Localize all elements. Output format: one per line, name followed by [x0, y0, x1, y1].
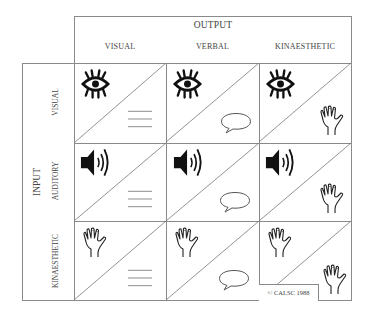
speech-bubble-icon	[220, 112, 252, 134]
cell-auditory-verbal	[166, 143, 259, 221]
copyright-label: © CALSC 1988	[259, 284, 319, 301]
row-header-visual: VISUAL	[51, 72, 61, 132]
hand-icon	[267, 227, 293, 259]
cell-visual-visual	[74, 63, 166, 143]
speech-bubble-icon	[218, 269, 250, 291]
output-title: OUTPUT	[74, 20, 352, 30]
speaker-icon	[265, 146, 295, 179]
cell-auditory-kinaesthetic	[259, 143, 351, 221]
speaker-icon	[173, 146, 203, 179]
cell-kinaesthetic-verbal	[166, 221, 259, 300]
hand-icon	[319, 183, 345, 215]
hand-icon	[319, 105, 345, 137]
eye-icon	[81, 69, 110, 99]
eye-icon	[266, 69, 295, 99]
lines-icon	[128, 109, 153, 129]
column-header-visual: VISUAL	[74, 42, 166, 51]
column-header-verbal: VERBAL	[166, 42, 259, 51]
speech-bubble-icon	[219, 191, 251, 213]
eye-icon	[173, 69, 202, 99]
cell-visual-kinaesthetic	[259, 63, 351, 142]
row-header-auditory: AUDITORY	[51, 151, 61, 211]
cell-kinaesthetic-visual	[74, 221, 166, 300]
hand-icon	[82, 227, 108, 259]
lines-icon	[128, 268, 153, 288]
input-box-left	[22, 63, 23, 301]
output-box-right	[351, 16, 352, 301]
cell-visual-verbal	[166, 63, 259, 142]
cell-auditory-visual	[74, 143, 166, 221]
hand-icon	[322, 263, 348, 297]
input-title: INPUT	[32, 152, 44, 212]
lines-icon	[128, 189, 153, 209]
column-header-kinaesthetic: KINAESTHETIC	[259, 42, 351, 51]
speaker-icon	[80, 146, 110, 179]
row-header-kinaesthetic: KINAESTHETIC	[51, 226, 61, 296]
hand-icon	[174, 227, 200, 259]
output-box-top	[74, 16, 352, 17]
